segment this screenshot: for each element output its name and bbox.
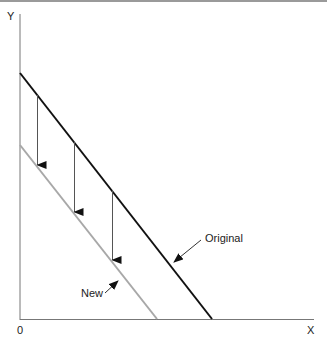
new-pointer-arrow (105, 281, 118, 293)
y-axis-label: Y (7, 11, 14, 22)
diagram-canvas (0, 0, 327, 347)
original-line-label: Original (205, 233, 243, 244)
original-pointer-arrow (174, 240, 201, 262)
new-line-label: New (81, 288, 103, 299)
original-line (20, 73, 212, 319)
x-axis-label: X (307, 325, 314, 336)
origin-label: 0 (17, 325, 23, 336)
